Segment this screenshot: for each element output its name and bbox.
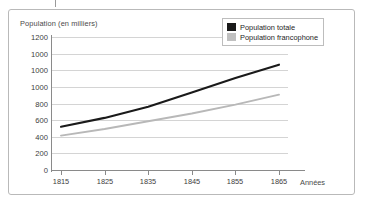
y-axis-tick-label: 200 [16, 149, 48, 158]
x-axis-line [51, 170, 305, 171]
legend-swatch-icon [227, 33, 236, 41]
y-axis-title: Population (en milliers) [20, 19, 98, 28]
legend-item-label: Population francophone [240, 33, 318, 42]
x-axis-title: Années [300, 178, 325, 187]
x-axis-tick [279, 171, 280, 175]
x-axis-tick-label: 1845 [177, 177, 207, 186]
y-axis-tick-label: 1000 [16, 66, 48, 75]
x-axis-tick-label: 1855 [220, 177, 250, 186]
x-axis-tick [105, 171, 106, 175]
data-series-line [61, 95, 279, 136]
y-axis-tick-label: 1000 [16, 83, 48, 92]
x-axis-tick-label: 1815 [46, 177, 76, 186]
chart-legend: Population totalePopulation francophone [222, 18, 324, 46]
x-axis-tick [235, 171, 236, 175]
x-axis-tick [148, 171, 149, 175]
plot-area [52, 37, 288, 170]
y-axis-tick-label: 1200 [16, 33, 48, 42]
y-axis-tick-label: 400 [16, 133, 48, 142]
line-chart: Population (en milliers) Années 12001000… [0, 0, 366, 205]
x-axis-tick-label: 1835 [133, 177, 163, 186]
legend-item-label: Population totale [240, 23, 295, 32]
y-axis-tick-label: 1000 [16, 50, 48, 59]
x-axis-tick-label: 1825 [90, 177, 120, 186]
x-axis-tick [192, 171, 193, 175]
y-axis-tick-label: 600 [16, 116, 48, 125]
x-axis-tick [61, 171, 62, 175]
x-axis-tick-label: 1865 [264, 177, 294, 186]
legend-item[interactable]: Population francophone [227, 32, 318, 42]
y-axis-tick-label: 800 [16, 100, 48, 109]
legend-item[interactable]: Population totale [227, 22, 318, 32]
y-axis-tick-label: 0 [16, 166, 48, 175]
legend-swatch-icon [227, 23, 236, 31]
